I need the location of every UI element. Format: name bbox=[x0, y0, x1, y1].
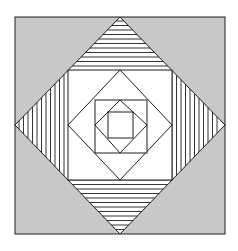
nested-squares-diagram bbox=[0, 0, 238, 251]
diagram-svg bbox=[0, 0, 238, 251]
inner-square-3 bbox=[108, 112, 133, 138]
